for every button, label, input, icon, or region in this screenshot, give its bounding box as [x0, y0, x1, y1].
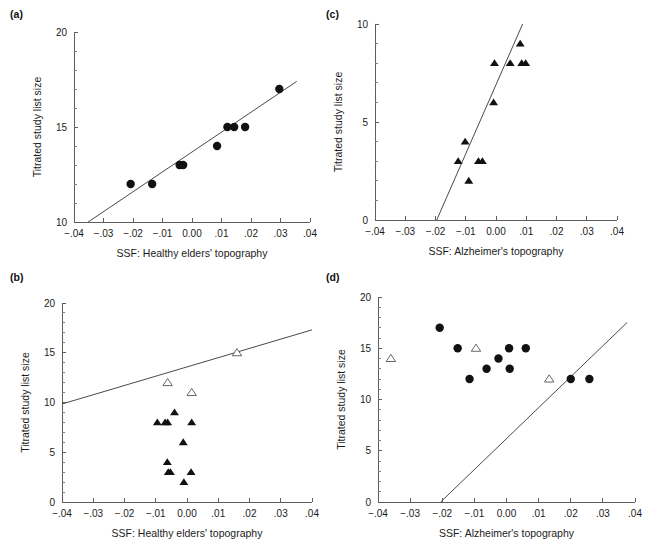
data-point: [187, 388, 196, 395]
y-tick-label: 5: [49, 447, 55, 458]
data-point: [163, 378, 172, 385]
panel-d-plot: −.04−.03−.02−.010.00.01.02.03.0405101520…: [320, 265, 657, 549]
x-tick-label: −.01: [146, 508, 166, 519]
x-tick-label: .01: [519, 226, 533, 237]
x-tick-label: .03: [596, 508, 610, 519]
data-point: [567, 375, 575, 383]
data-point: [232, 349, 241, 356]
panel-a-plot: −.04−.03−.02−.010.00.01.02.03.04101520SS…: [0, 0, 328, 272]
data-point: [465, 375, 473, 383]
y-tick-label: 0: [362, 215, 368, 226]
data-point: [494, 354, 502, 362]
x-axis-title: SSF: Alzheimer's topography: [428, 245, 564, 257]
data-point: [516, 40, 525, 47]
panel-b-tag: (b): [10, 271, 24, 283]
x-tick-label: .03: [580, 226, 594, 237]
y-tick-label: 15: [56, 122, 68, 133]
panel-b-plot: −.04−.03−.02−.010.00.01.02.03.0405101520…: [0, 265, 328, 549]
x-tick-label: .03: [274, 228, 288, 239]
x-tick-label: .02: [564, 508, 578, 519]
y-axis-title: Titrated study list size: [19, 352, 31, 453]
panel-d-tag: (d): [326, 271, 340, 283]
panel-d: (d) −.04−.03−.02−.010.00.01.02.03.040510…: [320, 265, 657, 549]
panel-c-plot: −.04−.03−.02−.010.00.01.02.03.040510SSF:…: [320, 0, 657, 272]
x-tick-label: −.04: [368, 508, 388, 519]
y-tick-label: 10: [360, 394, 372, 405]
x-tick-label: −.03: [400, 508, 420, 519]
x-tick-label: −.01: [465, 508, 485, 519]
x-axis-title: SSF: Healthy elders' topography: [112, 527, 264, 539]
y-tick-label: 0: [49, 497, 55, 508]
data-point: [522, 344, 530, 352]
data-point: [179, 161, 187, 169]
data-point: [435, 324, 443, 332]
figure-panel-grid: (a) −.04−.03−.02−.010.00.01.02.03.041015…: [0, 0, 657, 549]
x-tick-label: .02: [550, 226, 564, 237]
x-tick-label: −.04: [64, 228, 84, 239]
x-tick-label: −.02: [123, 228, 143, 239]
x-tick-label: −.03: [395, 226, 415, 237]
y-tick-label: 10: [44, 397, 56, 408]
y-tick-label: 10: [56, 217, 68, 228]
x-tick-label: −.04: [52, 508, 72, 519]
x-tick-label: .01: [532, 508, 546, 519]
data-point: [454, 157, 463, 164]
x-tick-label: .04: [303, 228, 317, 239]
regression-line: [441, 323, 627, 502]
regression-line: [437, 24, 523, 220]
data-point: [170, 409, 179, 416]
regression-line: [88, 81, 297, 222]
data-point: [179, 438, 188, 445]
x-tick-label: .03: [274, 508, 288, 519]
data-point: [179, 478, 188, 485]
data-point: [187, 468, 196, 475]
data-point: [163, 458, 172, 465]
data-point: [453, 344, 461, 352]
data-point: [275, 85, 283, 93]
x-tick-label: 0.00: [177, 508, 197, 519]
x-tick-label: .02: [244, 228, 258, 239]
data-point: [545, 375, 554, 382]
data-point: [482, 365, 490, 373]
y-tick-label: 20: [56, 27, 68, 38]
x-tick-label: .01: [211, 508, 225, 519]
y-axis-title: Titrated study list size: [332, 72, 344, 173]
regression-line: [62, 330, 312, 404]
data-point: [464, 177, 473, 184]
x-tick-label: .02: [243, 508, 257, 519]
data-point: [187, 418, 196, 425]
x-tick-label: −.03: [94, 228, 114, 239]
data-point: [489, 98, 498, 105]
y-tick-label: 15: [44, 347, 56, 358]
x-tick-label: 0.00: [497, 508, 517, 519]
panel-c-tag: (c): [326, 8, 339, 20]
y-tick-label: 0: [365, 497, 371, 508]
x-axis-title: SSF: Healthy elders' topography: [117, 247, 269, 259]
y-axis-title: Titrated study list size: [31, 77, 43, 178]
data-point: [461, 138, 470, 145]
x-tick-label: −.02: [115, 508, 135, 519]
x-tick-label: 0.00: [486, 226, 506, 237]
panel-b: (b) −.04−.03−.02−.010.00.01.02.03.040510…: [0, 265, 328, 549]
x-tick-label: −.02: [426, 226, 446, 237]
y-tick-label: 20: [360, 292, 372, 303]
panel-a: (a) −.04−.03−.02−.010.00.01.02.03.041015…: [0, 0, 328, 272]
data-point: [585, 375, 593, 383]
panel-a-tag: (a): [10, 8, 23, 20]
data-point: [148, 180, 156, 188]
y-tick-label: 10: [357, 19, 369, 30]
data-point: [490, 59, 499, 66]
x-tick-label: .04: [610, 226, 624, 237]
x-tick-label: .04: [628, 508, 642, 519]
panel-c: (c) −.04−.03−.02−.010.00.01.02.03.040510…: [320, 0, 657, 272]
data-point: [505, 344, 513, 352]
x-tick-label: .04: [305, 508, 319, 519]
data-point: [230, 123, 238, 131]
x-tick-label: −.01: [456, 226, 476, 237]
x-tick-label: −.02: [432, 508, 452, 519]
data-point: [471, 344, 480, 351]
data-point: [213, 142, 221, 150]
x-tick-label: .01: [215, 228, 229, 239]
x-tick-label: −.01: [153, 228, 173, 239]
y-axis-title: Titrated study list size: [335, 349, 347, 450]
